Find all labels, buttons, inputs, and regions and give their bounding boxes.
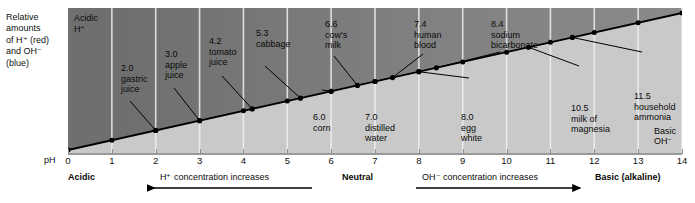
- annotation-line: bicarbonate: [491, 40, 538, 51]
- legend-line-3: and OH⁻: [6, 46, 64, 57]
- x-tick-mark-9: [463, 149, 464, 154]
- x-tick-mark-1: [112, 149, 113, 154]
- x-tick-mark-2: [156, 149, 157, 154]
- x-tick-mark-0: [68, 149, 69, 154]
- annotation-line: tomato: [209, 47, 237, 58]
- x-tick-label-9: 9: [460, 155, 465, 166]
- ph-scale-figure: Relative amounts of H⁺ (red) and OH⁻ (bl…: [0, 0, 695, 203]
- annotation-corn: 6.0corn: [313, 112, 331, 133]
- annotation-line: egg: [461, 123, 482, 134]
- x-tick-label-3: 3: [197, 155, 202, 166]
- annotation-cow-s-milk: 6.6cow'smilk: [325, 19, 347, 51]
- annotation-line: 10.5: [571, 103, 610, 114]
- annotation-line: corn: [313, 123, 331, 134]
- annotation-line: 7.4: [414, 19, 442, 30]
- annotation-line: juice: [121, 84, 148, 95]
- caption-h-concentration: H⁺ concentration increases: [160, 172, 269, 182]
- annotation-household-ammonia: 11.5householdammonia: [634, 91, 676, 123]
- y-axis-legend: Relative amounts of H⁺ (red) and OH⁻ (bl…: [6, 12, 64, 69]
- annotation-line: sodium: [491, 30, 538, 41]
- annotation-line: water: [365, 133, 395, 144]
- annotation-gastric-juice: 2.0gastricjuice: [121, 63, 148, 95]
- legend-line-4: (blue): [6, 58, 64, 69]
- x-tick-label-1: 1: [109, 155, 114, 166]
- x-tick-mark-14: [682, 149, 683, 154]
- x-tick-mark-3: [200, 149, 201, 154]
- x-tick-mark-13: [638, 149, 639, 154]
- caption-neutral: Neutral: [342, 172, 373, 182]
- annotation-milk-of-magnesia: 10.5milk ofmagnesia: [571, 103, 610, 135]
- legend-line-0: Relative: [6, 12, 64, 23]
- annotation-human-blood: 7.4humanblood: [414, 19, 442, 51]
- annotation-line: 3.0: [165, 49, 187, 60]
- annotation-line: 6.0: [313, 112, 331, 123]
- x-tick-mark-10: [507, 149, 508, 154]
- annotation-apple-juice: 3.0applejuice: [165, 49, 187, 81]
- x-tick-mark-4: [243, 149, 244, 154]
- annotation-sodium-bicarbonate: 8.4sodiumbicarbonate: [491, 19, 538, 51]
- acidic-corner-label: Acidic H⁺: [74, 13, 98, 34]
- x-tick-label-5: 5: [285, 155, 290, 166]
- annotation-egg-white: 8.0eggwhite: [461, 112, 482, 144]
- annotation-line: juice: [209, 57, 237, 68]
- oh-concentration-arrow: [412, 183, 588, 195]
- caption-basic: Basic (alkaline): [595, 172, 661, 182]
- annotation-line: 7.0: [365, 112, 395, 123]
- annotation-line: distilled: [365, 123, 395, 134]
- x-tick-label-11: 11: [545, 155, 555, 166]
- annotation-line: cow's: [325, 30, 347, 41]
- x-tick-label-10: 10: [501, 155, 512, 166]
- acidic-corner-line1: Acidic: [74, 13, 98, 24]
- annotation-line: white: [461, 133, 482, 144]
- annotation-line: ammonia: [634, 112, 676, 123]
- annotation-line: 11.5: [634, 91, 676, 102]
- h-concentration-arrow: [140, 183, 316, 195]
- legend-line-1: amounts: [6, 23, 64, 34]
- annotation-line: magnesia: [571, 124, 610, 135]
- x-tick-label-6: 6: [328, 155, 333, 166]
- x-tick-label-2: 2: [153, 155, 158, 166]
- annotation-line: 6.6: [325, 19, 347, 30]
- x-tick-label-4: 4: [241, 155, 246, 166]
- annotation-line: 5.3: [256, 28, 291, 39]
- caption-oh-concentration: OH⁻ concentration increases: [422, 172, 538, 182]
- annotation-line: milk: [325, 40, 347, 51]
- x-tick-mark-7: [375, 149, 376, 154]
- ph-axis-caption: pH: [44, 155, 56, 165]
- annotation-distilled-water: 7.0distilledwater: [365, 112, 395, 144]
- annotation-tomato-juice: 4.2tomatojuice: [209, 36, 237, 68]
- annotation-line: 4.2: [209, 36, 237, 47]
- annotation-line: juice: [165, 70, 187, 81]
- annotation-line: gastric: [121, 74, 148, 85]
- caption-acidic: Acidic: [68, 172, 95, 182]
- x-tick-mark-12: [594, 149, 595, 154]
- x-tick-label-0: 0: [65, 155, 70, 166]
- acidic-corner-line2: H⁺: [74, 24, 98, 35]
- basic-corner-line2: OH⁻: [654, 136, 676, 147]
- plot-area: Acidic H⁺ Basic OH⁻ 2.0gastricjuice3.0ap…: [68, 8, 682, 153]
- x-tick-label-7: 7: [372, 155, 377, 166]
- annotation-line: blood: [414, 40, 442, 51]
- x-tick-mark-11: [550, 149, 551, 154]
- x-tick-mark-8: [419, 149, 420, 154]
- basic-corner-label: Basic OH⁻: [654, 126, 676, 147]
- annotation-line: human: [414, 30, 442, 41]
- x-tick-mark-5: [287, 149, 288, 154]
- annotation-line: 8.0: [461, 112, 482, 123]
- x-tick-label-14: 14: [677, 155, 688, 166]
- legend-line-2: of H⁺ (red): [6, 35, 64, 46]
- annotation-line: 8.4: [491, 19, 538, 30]
- annotation-line: 2.0: [121, 63, 148, 74]
- annotation-cabbage: 5.3cabbage: [256, 28, 291, 49]
- x-tick-label-12: 12: [589, 155, 600, 166]
- basic-corner-line1: Basic: [654, 126, 676, 137]
- annotation-line: apple: [165, 60, 187, 71]
- annotation-line: cabbage: [256, 39, 291, 50]
- x-tick-mark-6: [331, 149, 332, 154]
- annotation-line: household: [634, 102, 676, 113]
- annotation-line: milk of: [571, 114, 610, 125]
- x-tick-label-8: 8: [416, 155, 421, 166]
- x-tick-label-13: 13: [633, 155, 644, 166]
